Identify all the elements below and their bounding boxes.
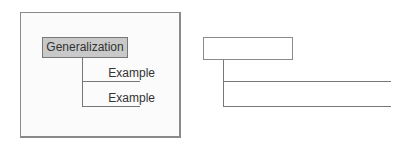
right-tree-trunk: [223, 60, 224, 107]
right-branch-2: [223, 106, 391, 107]
empty-root-node: [203, 37, 293, 60]
left-branch-1: [82, 81, 140, 82]
example-label-2: Example: [85, 91, 155, 105]
left-tree-trunk: [82, 58, 83, 107]
left-branch-2: [82, 106, 140, 107]
generalization-node: Generalization: [42, 37, 128, 58]
example-label-1: Example: [85, 66, 155, 80]
right-branch-1: [223, 81, 391, 82]
